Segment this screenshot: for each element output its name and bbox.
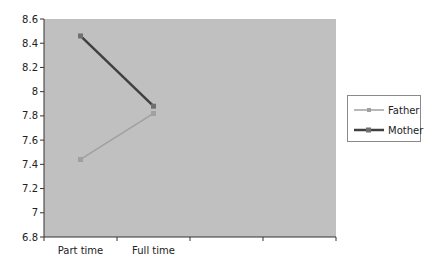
data-point-marker xyxy=(151,111,156,116)
x-axis: Part timeFull time xyxy=(44,237,336,256)
y-tick-label: 7.2 xyxy=(22,183,38,194)
data-point-marker xyxy=(151,104,156,109)
legend-item-mother: Mother xyxy=(354,123,423,137)
chart-legend: Father Mother xyxy=(347,95,421,142)
legend-label-father: Father xyxy=(388,105,419,116)
y-tick-label: 8.6 xyxy=(22,14,38,25)
y-tick-label: 7 xyxy=(32,207,38,218)
father-line-icon xyxy=(354,103,384,117)
x-tick-label: Part time xyxy=(58,245,104,256)
y-tick-label: 7.6 xyxy=(22,135,38,146)
x-tick-label: Full time xyxy=(132,245,175,256)
y-tick-label: 8 xyxy=(32,86,38,97)
mother-line-icon xyxy=(354,123,384,137)
y-tick-label: 8.4 xyxy=(22,38,38,49)
legend-label-mother: Mother xyxy=(388,125,423,136)
y-tick-label: 8.2 xyxy=(22,62,38,73)
legend-item-father: Father xyxy=(354,103,419,117)
data-point-marker xyxy=(78,33,83,38)
y-tick-label: 7.8 xyxy=(22,110,38,121)
y-tick-label: 6.8 xyxy=(22,232,38,243)
y-tick-label: 7.4 xyxy=(22,159,38,170)
y-axis: 8.68.48.287.87.67.47.276.8 xyxy=(22,14,44,243)
plot-area xyxy=(44,19,336,237)
data-point-marker xyxy=(78,157,83,162)
